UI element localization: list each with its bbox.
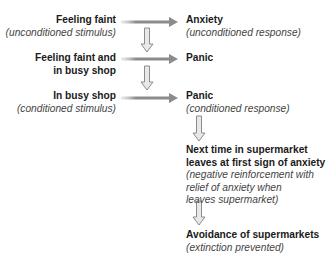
down-arrow-icon <box>193 116 205 141</box>
node-title: Panic <box>186 52 213 65</box>
node-leaves-supermarket: Next time in supermarket leaves at first… <box>186 144 325 207</box>
node-subtitle-line: (negative reinforcement with <box>186 169 325 182</box>
node-subtitle: (extinction prevented) <box>186 242 319 254</box>
node-title-line: in busy shop <box>35 65 116 78</box>
node-feeling-faint-busy-shop: Feeling faint and in busy shop <box>35 52 116 77</box>
down-arrow-icon <box>141 28 153 52</box>
node-title-line: Next time in supermarket <box>186 144 325 157</box>
node-feeling-faint: Feeling faint (unconditioned stimulus) <box>6 14 116 39</box>
node-panic: Panic <box>186 52 213 65</box>
node-title: In busy shop <box>17 90 116 103</box>
node-avoidance: Avoidance of supermarkets (extinction pr… <box>186 229 319 254</box>
node-subtitle: (conditioned stimulus) <box>17 103 116 116</box>
node-subtitle: (conditioned response) <box>186 103 290 116</box>
node-subtitle-line: leaves supermarket) <box>186 194 325 207</box>
node-subtitle: (unconditioned response) <box>186 27 301 40</box>
node-title-line: Feeling faint and <box>35 52 116 65</box>
node-subtitle-line: relief of anxiety when <box>186 182 325 195</box>
node-title-line: leaves at first sign of anxiety <box>186 157 325 170</box>
node-subtitle: (unconditioned stimulus) <box>6 27 116 40</box>
down-arrow-icon <box>141 66 153 90</box>
node-title: Feeling faint <box>6 14 116 27</box>
node-anxiety: Anxiety (unconditioned response) <box>186 14 301 39</box>
right-arrow-icon <box>121 54 178 64</box>
right-arrow-icon <box>121 93 178 103</box>
node-title: Anxiety <box>186 14 301 27</box>
node-title: Panic <box>186 90 290 103</box>
node-in-busy-shop: In busy shop (conditioned stimulus) <box>17 90 116 115</box>
right-arrow-icon <box>121 17 178 27</box>
node-title: Avoidance of supermarkets <box>186 229 319 242</box>
node-panic-conditioned: Panic (conditioned response) <box>186 90 290 115</box>
